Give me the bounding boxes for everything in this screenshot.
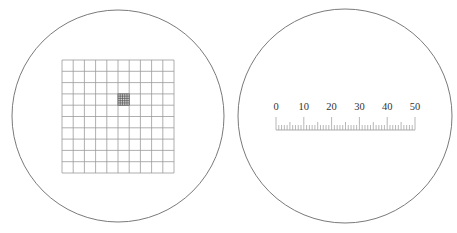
- counting-grid: [62, 60, 174, 173]
- counting-grid-reticle: [12, 10, 224, 222]
- scale-label: 40: [382, 101, 393, 112]
- scale-label: 20: [326, 101, 337, 112]
- micrometer-scale-reticle: 01020304050: [238, 9, 452, 223]
- scale-label: 50: [410, 101, 421, 112]
- scale-label: 10: [299, 101, 310, 112]
- fine-subdivided-cell: [118, 94, 129, 105]
- scale-label: 30: [354, 101, 365, 112]
- scale-label: 0: [273, 101, 278, 112]
- right-field-circle: [238, 9, 452, 223]
- reticle-diagram: 01020304050: [0, 0, 457, 233]
- micrometer-scale: 01020304050: [273, 101, 420, 130]
